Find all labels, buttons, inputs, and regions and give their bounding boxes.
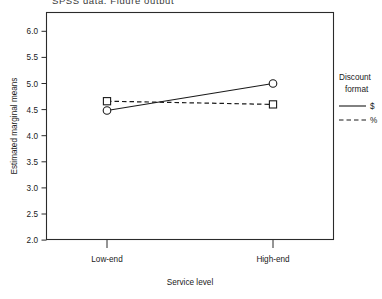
y-tick-label: 4.5	[27, 106, 39, 115]
y-tick-label: 6.0	[27, 27, 39, 36]
cut-off-header-text: SPSS data. Figure output	[52, 0, 242, 4]
y-tick-label: 2.5	[27, 210, 39, 219]
y-tick-label: 2.0	[27, 236, 39, 245]
y-tick-label: 5.0	[27, 80, 39, 89]
legend: Discount format $ %	[339, 73, 377, 125]
chart-svg: 6.0 5.5 5.0 4.5 4.0 3.5 3.0 2.5 2.0 Esti…	[0, 0, 382, 299]
y-tick-label: 3.5	[27, 158, 39, 167]
y-axis-title: Estimated marginal means	[10, 78, 19, 175]
legend-title-line2: format	[345, 85, 369, 94]
series-dollar-line	[107, 84, 273, 111]
legend-item-percent[interactable]: %	[339, 116, 377, 125]
series-percent-marker-high-end	[269, 101, 276, 108]
series-dollar-marker-high-end	[269, 80, 277, 88]
series-percent-line	[107, 101, 273, 104]
legend-title-line1: Discount	[339, 73, 372, 82]
series-dollar-marker-low-end	[103, 107, 111, 115]
legend-label-dollar: $	[370, 102, 375, 111]
x-axis-ticks	[107, 240, 273, 248]
series-percent-marker-low-end	[103, 98, 110, 105]
y-tick-label: 4.0	[27, 132, 39, 141]
legend-item-dollar[interactable]: $	[339, 102, 375, 111]
y-axis-ticks	[42, 31, 47, 240]
y-tick-label: 3.0	[27, 184, 39, 193]
series-dollar	[103, 80, 277, 115]
figure-container: SPSS data. Figure output 6.0 5.5 5.0 4.5…	[0, 0, 382, 299]
legend-label-percent: %	[370, 116, 377, 125]
x-axis-title: Service level	[167, 278, 214, 287]
plot-frame	[47, 13, 334, 240]
x-category-label-low-end: Low-end	[91, 255, 123, 264]
y-axis-tick-labels: 6.0 5.5 5.0 4.5 4.0 3.5 3.0 2.5 2.0	[27, 27, 39, 245]
y-tick-label: 5.5	[27, 53, 39, 62]
x-category-label-high-end: High-end	[256, 255, 290, 264]
